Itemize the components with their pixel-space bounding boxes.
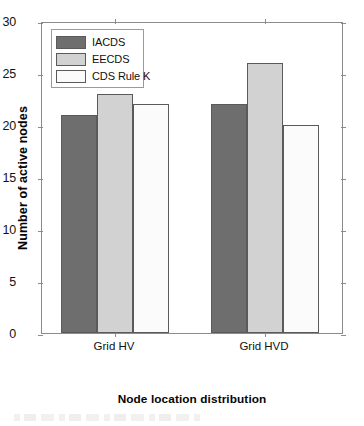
bar-cds-rule-k-grid-hvd [283,125,319,333]
y-axis-tick-right [341,23,346,24]
y-axis-tick-right [341,283,346,284]
y-axis-title: Number of active nodes [14,22,32,334]
x-axis-title: Node location distribution [41,392,343,406]
bar-cds-rule-k-grid-hv [133,104,169,333]
legend-swatch-icon [56,36,86,49]
y-axis-tick [38,75,43,76]
x-tick-label: Grid HV [94,340,135,352]
legend-swatch-icon [56,53,86,66]
bar-chart-figure: Number of active nodes 051015202530 IACD… [0,0,364,426]
y-axis-tick [38,23,43,24]
y-axis-tick [38,335,43,336]
y-tick-label: 20 [0,119,16,133]
bar-eecds-grid-hvd [247,63,283,333]
y-tick-label: 10 [0,223,16,237]
y-axis-tick-right [341,127,346,128]
plot-area: IACDSEECDSCDS Rule K [41,22,343,334]
legend-label: CDS Rule K [92,70,150,82]
bar-iacds-grid-hvd [211,104,247,333]
y-axis-tick-right [341,335,346,336]
legend-item: IACDS [56,34,139,50]
y-tick-label: 15 [0,171,16,185]
legend-label: EECDS [92,53,129,65]
legend-item: EECDS [56,51,139,67]
x-axis-tick-top [265,19,266,24]
y-axis-tick [38,231,43,232]
y-axis-tick [38,283,43,284]
bar-eecds-grid-hv [97,94,133,333]
y-axis-tick [38,179,43,180]
scan-artifact [14,414,204,421]
y-axis-tick-right [341,231,346,232]
chart-legend: IACDSEECDSCDS Rule K [51,29,144,88]
legend-item: CDS Rule K [56,68,139,84]
y-axis-tick-right [341,179,346,180]
x-tick-label: Grid HVD [239,340,288,352]
y-tick-label: 0 [0,327,16,341]
y-axis-tick-right [341,75,346,76]
x-axis-tick-top [115,19,116,24]
legend-label: IACDS [92,36,125,48]
y-axis-tick [38,127,43,128]
bar-iacds-grid-hv [61,115,97,333]
y-tick-label: 30 [0,15,16,29]
y-tick-label: 25 [0,67,16,81]
y-tick-label: 5 [0,275,16,289]
legend-swatch-icon [56,70,86,83]
